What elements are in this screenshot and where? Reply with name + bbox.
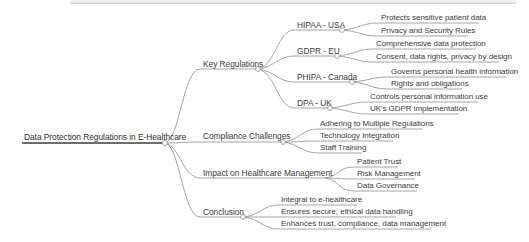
mindmap-links — [0, 0, 529, 242]
leaf-phipa-rights[interactable]: Rights and obligations — [391, 79, 469, 89]
leaf-gdpr-consent[interactable]: Consent, data rights, privacy by design — [376, 52, 512, 62]
link-compliance-leaf-2 — [283, 141, 393, 142]
leaf-compliance-adhering[interactable]: Adhering to Multiple Regulations — [320, 119, 434, 129]
branch-conclusion[interactable]: Conclusion — [203, 207, 244, 217]
root-node[interactable]: Data Protection Regulations in E-Healthc… — [24, 132, 186, 142]
link-root-compliance — [165, 142, 283, 143]
node-hipaa-usa[interactable]: HIPAA - USA — [297, 20, 345, 30]
leaf-phipa-governs[interactable]: Governs personal health information — [391, 67, 518, 77]
leaf-hipaa-privacy-security[interactable]: Privacy and Security Rules — [381, 26, 475, 36]
leaf-conclusion-enhances[interactable]: Enhances trust, compliance, data managem… — [281, 219, 446, 229]
leaf-dpa-uk-gdpr[interactable]: UK's GDPR implementation — [370, 104, 467, 114]
leaf-hipaa-protects-data[interactable]: Protects sensitive patient data — [381, 13, 486, 23]
leaf-dpa-controls[interactable]: Controls personal information use — [370, 92, 488, 102]
leaf-impact-data-governance[interactable]: Data Governance — [357, 181, 419, 191]
leaf-compliance-staff-training[interactable]: Staff Training — [320, 143, 366, 153]
leaf-impact-risk-management[interactable]: Risk Management — [357, 169, 421, 179]
leaf-compliance-technology[interactable]: Technology Integration — [320, 131, 399, 141]
leaf-impact-patient-trust[interactable]: Patient Trust — [357, 157, 401, 167]
leaf-conclusion-integral[interactable]: Integral to e-healthcare — [281, 195, 362, 205]
node-gdpr-eu[interactable]: GDPR - EU — [297, 46, 340, 56]
leaf-conclusion-ensures[interactable]: Ensures secure, ethical data handling — [281, 207, 413, 217]
node-phipa-canada[interactable]: PHIPA - Canada — [297, 72, 357, 82]
branch-impact-healthcare-management[interactable]: Impact on Healthcare Management — [203, 168, 332, 178]
node-dpa-uk[interactable]: DPA - UK — [297, 98, 332, 108]
mindmap-canvas: Data Protection Regulations in E-Healthc… — [0, 0, 529, 242]
branch-key-regulations[interactable]: Key Regulations — [203, 59, 263, 69]
link-key-gdpr — [258, 56, 337, 69]
leaf-gdpr-comprehensive[interactable]: Comprehensive data protection — [376, 39, 486, 49]
link-root-conclusion — [165, 143, 243, 217]
branch-compliance-challenges[interactable]: Compliance Challenges — [203, 131, 290, 141]
